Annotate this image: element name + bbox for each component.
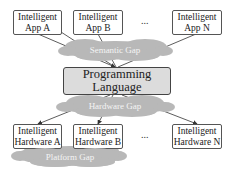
platform-gap-label: Platform Gap bbox=[33, 152, 107, 162]
platform-gap-overlay bbox=[0, 0, 234, 174]
